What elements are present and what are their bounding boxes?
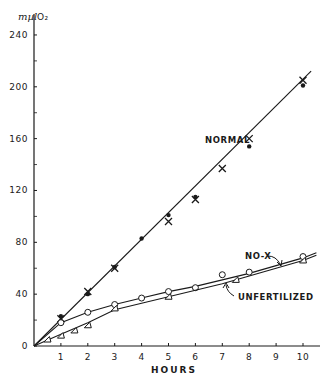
circle-marker [219,272,225,278]
x-tick-label: 8 [246,352,252,362]
x-tick-label: 3 [112,352,118,362]
dot-marker [139,236,143,240]
axes: 0408012016020024012345678910 [9,14,320,362]
dot-marker [59,314,63,318]
y-axis-gas: O₂ [37,12,49,22]
x-marker [165,218,172,225]
oxygen-consumption-chart: 0408012016020024012345678910 mµl O₂ HOUR… [0,0,330,383]
x-marker [219,165,226,172]
circle-marker [139,295,145,301]
dot-marker [166,213,170,217]
triangle-marker [44,337,51,343]
x-tick-label: 2 [85,352,91,362]
y-axis-unit: mµl [18,11,37,22]
x-tick-label: 5 [165,352,171,362]
circle-marker [58,320,64,326]
x-tick-label: 6 [192,352,198,362]
circle-marker [246,269,252,275]
label-normal: NORMAL [205,135,250,145]
y-tick-label: 240 [9,30,28,40]
x-marker [300,77,307,84]
x-tick-label: 7 [219,352,225,362]
y-tick-label: 200 [9,82,28,92]
label-nox: NO-X [245,251,271,261]
label-unfertilized: UNFERTILIZED [238,292,314,302]
data-series [34,71,316,346]
dot-marker [301,83,305,87]
y-tick-label: 80 [16,237,28,247]
circle-marker [85,309,91,315]
normal-fit-line [34,71,311,346]
y-tick-label: 0 [22,341,28,351]
arrow-unfertilized [226,285,234,296]
y-tick-label: 160 [9,134,28,144]
x-axis-title: HOURS [151,365,197,375]
x-tick-label: 9 [273,352,279,362]
dot-marker [113,265,117,269]
dot-marker [193,195,197,199]
y-tick-label: 120 [9,185,28,195]
dot-marker [86,292,90,296]
y-tick-label: 40 [16,289,28,299]
x-tick-label: 10 [297,352,309,362]
x-tick-label: 1 [58,352,64,362]
x-tick-label: 4 [138,352,144,362]
